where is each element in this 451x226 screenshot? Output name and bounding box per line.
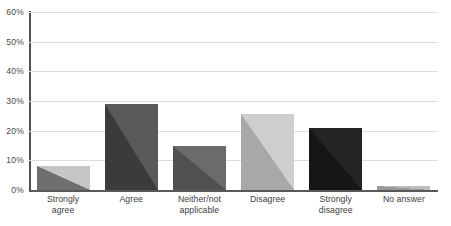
bar[interactable]: 29.13%(1,386) xyxy=(105,104,158,190)
x-axis-tick-label-line: agree xyxy=(29,205,97,216)
x-axis-tick-label-line: applicable xyxy=(165,205,233,216)
bar-slot: 21.02%(1,000) xyxy=(309,128,362,190)
bar[interactable]: 1.30%(62) xyxy=(377,186,430,190)
bar[interactable]: 14.90%(709) xyxy=(173,146,226,190)
x-axis-tick-label-line: Strongly xyxy=(29,194,97,205)
x-axis-tick-label: Disagree xyxy=(234,194,302,205)
bar[interactable]: 25.60%(1,218) xyxy=(241,114,294,190)
x-axis-tick-label: No answer xyxy=(370,194,438,205)
plot-area: 0%10%20%30%40%50%60% 8.05%(383)29.13%(1,… xyxy=(29,12,438,190)
bar-slot: 29.13%(1,386) xyxy=(105,104,158,190)
y-axis-tick-label: 40% xyxy=(6,66,24,76)
bar-slot: 25.60%(1,218) xyxy=(241,114,294,190)
chart-title: Parents' view of homework usefulness xyxy=(0,0,451,3)
bar-slot: 1.30%(62) xyxy=(377,186,430,190)
bar-series: 8.05%(383)29.13%(1,386)14.90%(709)25.60%… xyxy=(29,12,438,190)
y-axis-tick-label: 60% xyxy=(6,7,24,17)
bar-slot: 14.90%(709) xyxy=(173,146,226,190)
bar-slot: 8.05%(383) xyxy=(37,166,90,190)
x-axis-tick-label: Stronglyagree xyxy=(29,194,97,216)
y-axis-tick-label: 30% xyxy=(6,96,24,106)
x-axis-category-labels: StronglyagreeAgreeNeither/notapplicableD… xyxy=(29,194,438,226)
x-axis-tick-label-line: Agree xyxy=(97,194,165,205)
x-axis-tick-label: Stronglydisagree xyxy=(302,194,370,216)
y-axis-tick-label: 0% xyxy=(11,185,24,195)
x-axis-tick-label-line: disagree xyxy=(302,205,370,216)
y-axis-tick-label: 50% xyxy=(6,37,24,47)
x-axis-tick-label: Agree xyxy=(97,194,165,205)
y-axis-tick-label: 20% xyxy=(6,126,24,136)
y-axis-tick-label: 10% xyxy=(6,155,24,165)
x-axis-tick-label-line: Disagree xyxy=(234,194,302,205)
x-axis-tick-label-line: Strongly xyxy=(302,194,370,205)
x-axis-tick-label: Neither/notapplicable xyxy=(165,194,233,216)
bar[interactable]: 8.05%(383) xyxy=(37,166,90,190)
x-axis-tick-label-line: Neither/not xyxy=(165,194,233,205)
x-axis-tick-label-line: No answer xyxy=(370,194,438,205)
axis-baseline: 0% xyxy=(29,190,438,192)
bar-chart: Parents' view of homework usefulness 0%1… xyxy=(0,0,451,226)
bar[interactable]: 21.02%(1,000) xyxy=(309,128,362,190)
